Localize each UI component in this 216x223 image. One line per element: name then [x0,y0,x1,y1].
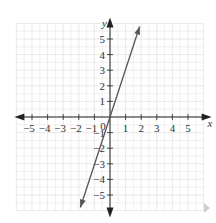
x-tick-label: 4 [170,122,176,134]
x-tick-label: −2 [70,122,82,134]
axes [14,17,211,217]
x-tick-label: −3 [54,122,66,134]
line-top-arrow-icon [134,27,140,36]
coordinate-plane: −5−4−3−2−112345−5−4−3−2−1123450xy [0,0,216,223]
y-tick-label: −5 [93,189,105,201]
y-axis-label: y [101,17,107,29]
x-tick-label: −5 [23,122,35,134]
x-tick-label: 5 [185,122,191,134]
next-arrow-icon[interactable] [204,203,210,213]
x-tick-label: 1 [123,122,129,134]
y-tick-label: 5 [100,33,106,45]
line-bottom-arrow-icon [80,199,86,208]
x-tick-label: 3 [154,122,160,134]
x-tick-label: −4 [39,122,51,134]
y-axis-down-arrow-icon [107,208,114,218]
x-axis-left-arrow-icon [14,114,24,121]
y-tick-label: 1 [100,95,106,107]
y-axis-up-arrow-icon [107,17,114,27]
x-tick-label: 2 [138,122,144,134]
x-axis-label: x [207,117,213,129]
y-tick-label: −4 [93,173,105,185]
y-tick-label: 3 [100,64,106,76]
y-tick-label: 4 [100,49,106,61]
y-tick-label: 2 [100,80,106,92]
